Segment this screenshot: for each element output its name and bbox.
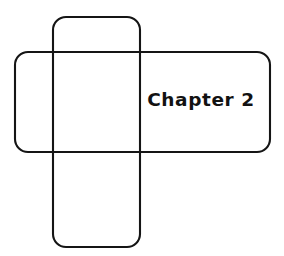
chapter-label: Chapter 2 (147, 89, 255, 110)
figure-canvas: Chapter 2 (0, 0, 284, 256)
figure-svg: Chapter 2 (0, 0, 284, 256)
